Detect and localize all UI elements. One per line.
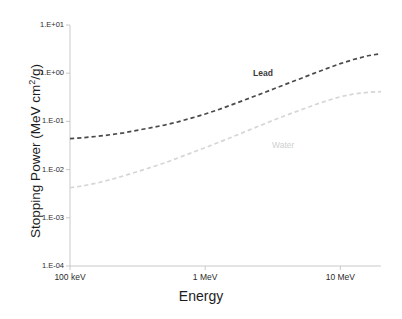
y-axis-ticks: [66, 25, 70, 266]
y-axis-title-superscript: 2: [27, 80, 37, 85]
x-axis-title: Energy: [0, 288, 402, 304]
series-label-lead: Lead: [253, 68, 273, 78]
data-series-group: [70, 54, 381, 188]
series-line-lead: [70, 54, 381, 139]
x-axis-tick-label: 1 MeV: [165, 272, 245, 282]
x-axis-tick-label: 10 MeV: [300, 272, 380, 282]
y-axis-title-prefix: Stopping Power (MeV cm: [28, 85, 43, 238]
x-axis-ticks: [70, 266, 340, 270]
series-label-water: Water: [272, 140, 294, 150]
axes: [66, 25, 381, 270]
y-axis-title: Stopping Power (MeV cm2/g): [28, 64, 43, 238]
y-axis-title-wrapper: Stopping Power (MeV cm2/g): [26, 11, 44, 291]
series-line-water: [70, 92, 381, 188]
y-axis-title-suffix: /g): [28, 64, 43, 80]
stopping-power-chart: 1.E+011.E+001.E-011.E-021.E-031.E-04 100…: [0, 0, 402, 319]
